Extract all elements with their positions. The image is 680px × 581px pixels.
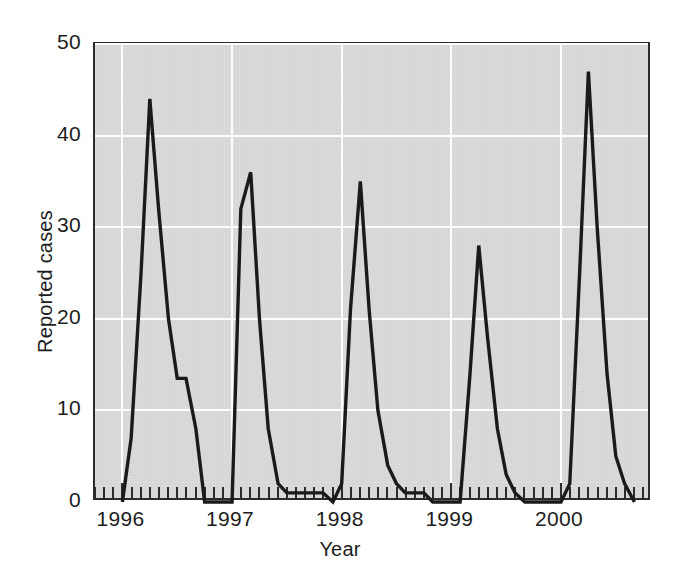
y-tick-label: 20: [33, 306, 81, 327]
x-axis-title: Year: [0, 538, 680, 561]
x-tick-label: 1996: [65, 508, 175, 530]
x-tick-label: 2000: [504, 508, 614, 530]
y-tick-label: 50: [33, 31, 81, 52]
x-tick-label: 1998: [285, 508, 395, 530]
series-line-chart: [95, 44, 652, 502]
x-tick-label: 1997: [175, 508, 285, 530]
series-polyline: [122, 71, 634, 502]
y-tick-label: 40: [33, 123, 81, 144]
plot-area: [93, 42, 650, 500]
x-tick-label: 1999: [394, 508, 504, 530]
y-tick-label: 30: [33, 214, 81, 235]
y-tick-label: 0: [33, 489, 81, 510]
y-tick-label: 10: [33, 397, 81, 418]
chart-figure: Reported cases 0 10 20 30 40 50 1996 199…: [0, 0, 680, 581]
